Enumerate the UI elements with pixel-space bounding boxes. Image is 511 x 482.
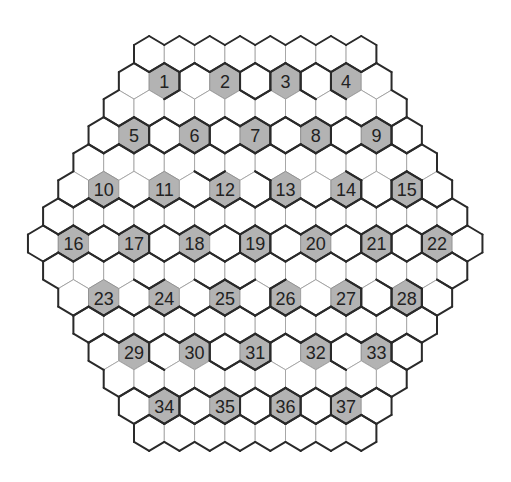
- hex-puzzle-board: 1234567891011121314151617181920212223242…: [0, 0, 511, 482]
